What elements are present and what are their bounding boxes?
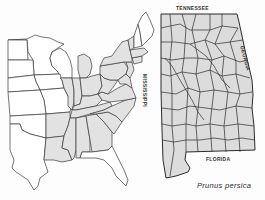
state-massachusetts (130, 48, 148, 58)
us-eastern-states-map (0, 0, 265, 200)
label-tennessee: TENNESSEE (176, 5, 209, 11)
alabama-county-map (161, 14, 255, 178)
state-north-dakota (8, 40, 28, 60)
distribution-map-figure: TENNESSEE MISSISSIPPI GEORGIA FLORIDA Pr… (0, 0, 265, 200)
state-new-york (100, 40, 132, 66)
state-florida (80, 146, 128, 186)
species-name-caption: Prunus persica (197, 181, 251, 190)
state-new-jersey (126, 62, 134, 78)
state-michigan (78, 54, 92, 78)
label-mississippi: MISSISSIPPI (142, 74, 148, 107)
alabama-outline (161, 14, 255, 178)
label-florida: FLORIDA (206, 156, 230, 162)
state-kansas (8, 90, 46, 116)
